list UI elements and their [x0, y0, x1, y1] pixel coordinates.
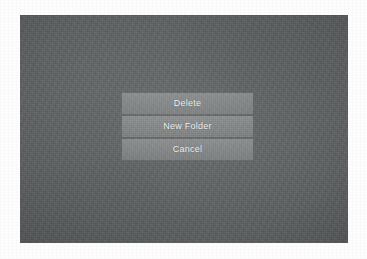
page-canvas: Delete New Folder Cancel	[0, 0, 367, 259]
photographed-device-screen: Delete New Folder Cancel	[20, 15, 348, 243]
new-folder-button-label: New Folder	[163, 121, 212, 131]
delete-button-label: Delete	[174, 98, 202, 108]
delete-button[interactable]: Delete	[122, 93, 253, 114]
action-sheet: Delete New Folder Cancel	[122, 93, 253, 160]
new-folder-button[interactable]: New Folder	[122, 116, 253, 137]
cancel-button-label: Cancel	[173, 144, 203, 154]
cancel-button[interactable]: Cancel	[122, 139, 253, 160]
